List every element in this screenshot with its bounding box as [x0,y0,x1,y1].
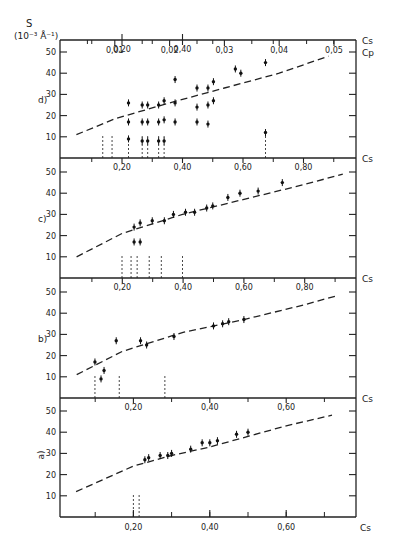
data-point [221,322,224,325]
data-point [208,441,211,444]
y-tick-label: 40 [46,189,56,198]
data-point [173,78,176,81]
data-point [102,369,105,372]
data-point [246,431,249,434]
cp-axis-label: Cp [362,48,374,58]
data-point [239,72,242,75]
data-point [157,139,160,142]
x-tick-label: 0,60 [235,283,253,292]
data-point [145,343,148,346]
data-point [132,240,135,243]
x-tick-label: 0,80 [295,163,313,172]
data-point [227,320,230,323]
y-tick-label: 50 [46,407,56,416]
data-point [139,339,142,342]
x-tick-label: 0,60 [277,403,295,412]
data-point [216,439,219,442]
data-point [138,221,141,224]
x-tick-label: 0,20 [113,163,131,172]
x-tick-label: 0,40 [174,163,192,172]
data-point [143,458,146,461]
panel-label: a) [36,450,46,459]
data-point [151,219,154,222]
data-point [157,103,160,106]
cp-tick-label: 0,01 [106,46,124,55]
data-point [162,118,165,121]
data-point [173,101,176,104]
x-tick-label-bottom: 0,20 [124,523,142,532]
data-point [138,240,141,243]
cp-tick-label: 0,05 [325,46,343,55]
cp-tick-label: 0,03 [215,46,233,55]
panel-label: c) [38,214,46,224]
data-point [166,454,169,457]
data-point [200,441,203,444]
data-point [172,335,175,338]
y-tick-label: 40 [46,428,56,437]
x-tick-label: 0,60 [234,163,252,172]
data-point [226,196,229,199]
data-point [256,189,259,192]
y-tick-label: 30 [46,210,56,219]
y-axis-label: S [26,18,32,29]
data-point [206,103,209,106]
data-point [195,105,198,108]
y-tick-label: 10 [46,492,56,501]
data-point [163,219,166,222]
data-point [141,139,144,142]
y-tick-label: 50 [46,48,56,57]
data-point [99,377,102,380]
panel-label: b) [38,334,47,344]
data-point [195,120,198,123]
data-point [238,192,241,195]
data-point [281,181,284,184]
fit-curve [76,415,332,491]
data-point [212,324,215,327]
data-point [264,61,267,64]
cs-axis-label: Cs [362,36,373,46]
cs-axis-label: Cs [362,394,373,404]
chart-canvas: 1020304050d)0,200,40Cs0,010,020,030,040,… [0,0,397,560]
x-tick-label: 0,80 [296,283,314,292]
cs-axis-label-bottom: Cs [360,523,371,533]
y-tick-label: 20 [46,471,56,480]
data-point [158,454,161,457]
y-axis-unit: (10⁻³ Å⁻¹) [14,31,58,41]
data-point [193,211,196,214]
data-point [264,131,267,134]
fit-curve [77,296,335,375]
data-point [235,433,238,436]
data-point [162,139,165,142]
cs-axis-label: Cs [362,274,373,284]
data-point [127,137,130,140]
data-point [141,103,144,106]
data-point [162,99,165,102]
data-point [189,447,192,450]
x-tick-label: 0,20 [124,403,142,412]
data-point [211,204,214,207]
data-point [184,211,187,214]
cs-axis-label: Cs [362,154,373,164]
y-tick-label: 50 [46,288,56,297]
y-tick-label: 30 [46,449,56,458]
data-point [146,139,149,142]
data-point [93,360,96,363]
data-point [212,80,215,83]
y-tick-label: 10 [46,133,56,142]
x-tick-label-bottom: 0,60 [277,523,295,532]
y-tick-label: 30 [46,90,56,99]
x-tick-label: 0,20 [113,283,131,292]
data-point [172,213,175,216]
fit-curve [77,174,343,257]
data-point [115,339,118,342]
data-point [173,120,176,123]
data-point [206,86,209,89]
data-point [146,120,149,123]
data-point [141,120,144,123]
data-point [195,86,198,89]
y-tick-label: 40 [46,69,56,78]
data-point [146,103,149,106]
y-tick-label: 10 [46,253,56,262]
data-point [242,318,245,321]
y-tick-label: 20 [46,112,56,121]
